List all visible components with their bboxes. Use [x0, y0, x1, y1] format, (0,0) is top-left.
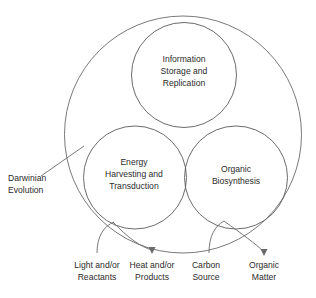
label-line: Energy	[120, 157, 148, 167]
label-line: Organic	[249, 260, 280, 270]
arrowhead-heat-and-or-products	[149, 247, 156, 254]
label-organic-biosynthesis: Organic Biosynthesis	[212, 164, 260, 186]
label-energy-harvesting-and-transduction: Energy Harvesting and Transduction	[105, 157, 163, 191]
label-darwinian-evolution: Darwinian Evolution	[8, 173, 46, 195]
label-light-and-or-reactants: Light and/or Reactants	[74, 260, 120, 282]
label-line: Products	[135, 272, 169, 282]
label-line: Reactants	[78, 272, 117, 282]
diagram-svg: Information Storage and Replication Ener…	[0, 0, 316, 298]
label-line: Transduction	[109, 181, 159, 191]
label-line: Light and/or	[74, 260, 120, 270]
label-heat-and-or-products: Heat and/or Products	[130, 260, 175, 282]
label-line: Information	[163, 54, 206, 64]
label-line: Harvesting and	[105, 169, 163, 179]
label-line: Matter	[252, 272, 276, 282]
label-line: Darwinian	[8, 173, 46, 183]
label-carbon-source: Carbon Source	[192, 260, 220, 282]
label-line: Organic	[221, 164, 252, 174]
label-organic-matter: Organic Matter	[249, 260, 280, 282]
label-line: Carbon	[192, 260, 220, 270]
outer-circle-darwinian-evolution	[65, 16, 302, 253]
label-line: Replication	[163, 78, 206, 88]
diagram-canvas: Information Storage and Replication Ener…	[0, 0, 316, 298]
leader-line-darwinian-evolution	[41, 146, 84, 176]
label-line: Storage and	[161, 66, 208, 76]
arc-light-and-or-reactants	[97, 222, 114, 253]
label-information-storage-and-replication: Information Storage and Replication	[161, 54, 208, 88]
label-line: Evolution	[8, 185, 44, 195]
label-line: Source	[192, 272, 219, 282]
label-line: Biosynthesis	[212, 176, 260, 186]
label-line: Heat and/or	[130, 260, 175, 270]
arrowhead-organic-matter	[261, 249, 268, 256]
